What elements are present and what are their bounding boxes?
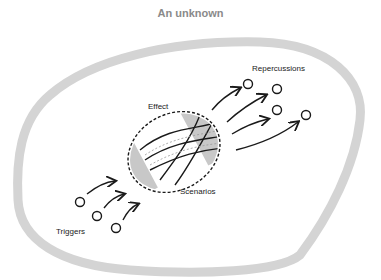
repercussion-arrow xyxy=(212,88,240,110)
repercussions-group xyxy=(212,80,311,151)
triggers-group xyxy=(76,181,139,233)
repercussion-node xyxy=(273,85,282,94)
repercussion-arrow xyxy=(227,95,266,122)
repercussions-label: Repercussions xyxy=(252,64,305,73)
effect-label: Effect xyxy=(148,102,168,111)
trigger-arrow xyxy=(87,181,115,194)
trigger-node xyxy=(112,224,121,233)
trigger-arrow xyxy=(123,204,138,220)
unknown-diagram xyxy=(0,0,381,280)
trigger-node xyxy=(76,198,85,207)
scenarios-label: Scenarios xyxy=(180,187,216,196)
trigger-arrow xyxy=(104,194,124,208)
effect-blob xyxy=(96,95,242,208)
trigger-node xyxy=(93,212,102,221)
repercussion-arrow xyxy=(232,119,268,134)
repercussion-node xyxy=(302,111,311,120)
triggers-label: Triggers xyxy=(56,227,85,236)
repercussion-node xyxy=(273,106,282,115)
repercussion-node xyxy=(244,80,253,89)
